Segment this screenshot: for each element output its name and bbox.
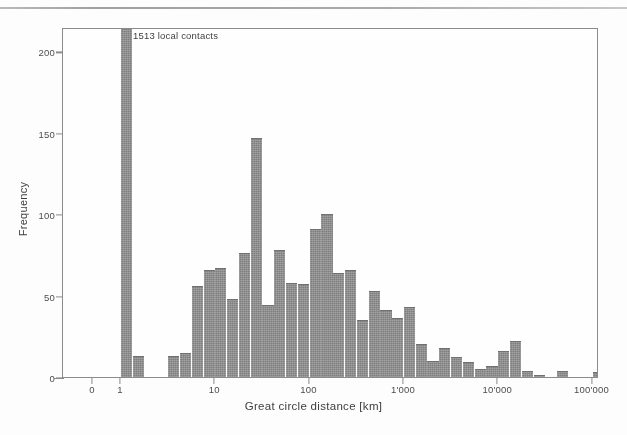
y-tick-label: 50 bbox=[44, 291, 55, 302]
histogram-bar bbox=[310, 229, 321, 377]
histogram-bar bbox=[404, 307, 415, 377]
x-axis-title: Great circle distance [km] bbox=[0, 400, 627, 412]
y-tick-label: 100 bbox=[39, 210, 55, 221]
histogram-bar bbox=[168, 356, 179, 377]
histogram-bar bbox=[557, 371, 568, 378]
histogram-bar bbox=[180, 353, 191, 377]
plot-frame bbox=[62, 28, 598, 378]
histogram-bar bbox=[192, 286, 203, 377]
x-tick-label: 10 bbox=[209, 384, 220, 395]
histogram-bar bbox=[121, 29, 132, 377]
histogram-bar bbox=[439, 348, 450, 377]
x-tick-mark bbox=[119, 378, 120, 384]
histogram-bar bbox=[510, 341, 521, 377]
histogram-bar bbox=[227, 299, 238, 377]
x-tick-mark bbox=[308, 378, 309, 384]
histogram-bar bbox=[215, 268, 226, 377]
histogram-bar bbox=[262, 305, 273, 377]
histogram-bar bbox=[463, 362, 474, 377]
histogram-bar bbox=[380, 310, 391, 377]
histogram-figure: Frequency 050100150200 Great circle dist… bbox=[0, 0, 627, 435]
histogram-bar bbox=[357, 320, 368, 377]
histogram-bar bbox=[534, 375, 545, 377]
x-axis-baseline-stub bbox=[54, 378, 64, 379]
histogram-bar bbox=[321, 214, 332, 377]
x-tick-mark bbox=[402, 378, 403, 384]
histogram-bar bbox=[204, 270, 215, 377]
histogram-bar bbox=[369, 291, 380, 377]
plot-area bbox=[63, 29, 597, 377]
x-tick-label: 100'000 bbox=[574, 384, 609, 395]
histogram-bar bbox=[498, 351, 509, 377]
histogram-bar bbox=[392, 318, 403, 377]
histogram-bar bbox=[274, 250, 285, 377]
histogram-bar bbox=[298, 284, 309, 377]
histogram-bar bbox=[239, 253, 250, 377]
histogram-bar bbox=[593, 372, 598, 377]
x-tick-mark bbox=[497, 378, 498, 384]
histogram-bar bbox=[133, 356, 144, 377]
x-tick-mark bbox=[591, 378, 592, 384]
local-contacts-annotation: 1513 local contacts bbox=[133, 30, 218, 41]
histogram-bar bbox=[345, 270, 356, 377]
y-tick-label: 150 bbox=[39, 128, 55, 139]
histogram-bar bbox=[475, 369, 486, 377]
x-tick-mark bbox=[91, 378, 92, 384]
histogram-bar bbox=[427, 361, 438, 377]
x-tick-label: 1 bbox=[117, 384, 122, 395]
x-tick-label: 1'000 bbox=[391, 384, 415, 395]
y-axis: Frequency 050100150200 bbox=[0, 0, 62, 435]
histogram-bar bbox=[522, 371, 533, 378]
y-tick-label: 200 bbox=[39, 47, 55, 58]
x-tick-label: 10'000 bbox=[482, 384, 511, 395]
histogram-bar bbox=[286, 283, 297, 377]
histogram-bar bbox=[451, 357, 462, 377]
histogram-bar bbox=[333, 273, 344, 377]
histogram-bar bbox=[251, 138, 262, 377]
x-tick-label: 100 bbox=[300, 384, 316, 395]
x-tick-mark bbox=[214, 378, 215, 384]
y-axis-title: Frequency bbox=[17, 139, 29, 279]
histogram-bar bbox=[416, 344, 427, 377]
x-tick-label: 0 bbox=[89, 384, 94, 395]
histogram-bar bbox=[486, 366, 497, 377]
